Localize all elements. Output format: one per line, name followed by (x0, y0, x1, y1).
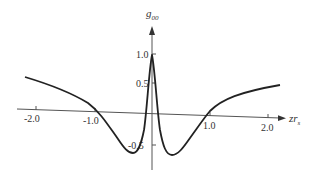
y-axis-arrow-icon (149, 26, 155, 35)
chart: -2.0 -1.0 1.0 2.0 1.0 0.5 -0.5 g00 zrs (0, 0, 316, 175)
y-tick-label: 1.0 (136, 49, 149, 60)
x-tick-label: 2.0 (261, 122, 274, 133)
x-axis-label: zrs (288, 112, 301, 127)
x-tick-label: -1.0 (83, 115, 99, 126)
x-axis-arrow-icon (278, 115, 286, 121)
x-tick-label: 1.0 (203, 120, 216, 131)
x-tick-label: -2.0 (24, 113, 40, 124)
y-axis-label: g00 (146, 7, 159, 22)
x-axis-line (17, 109, 280, 118)
y-tick-label: 0.5 (136, 78, 149, 89)
